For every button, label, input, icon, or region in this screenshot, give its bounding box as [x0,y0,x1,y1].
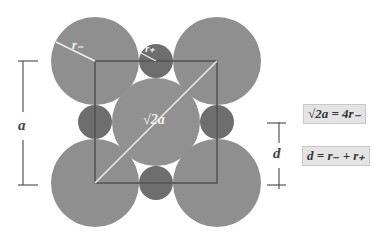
r-minus-label: r₋ [72,38,83,53]
a-label: a [18,117,26,134]
equation-box-1: √2a = 4r₋ [303,104,366,124]
r-plus-label: r₊ [145,42,155,55]
diagonal-label: √2a [143,112,165,128]
equation-box-2: d = r₋ + r₊ [302,146,370,166]
d-label: d [273,145,281,162]
